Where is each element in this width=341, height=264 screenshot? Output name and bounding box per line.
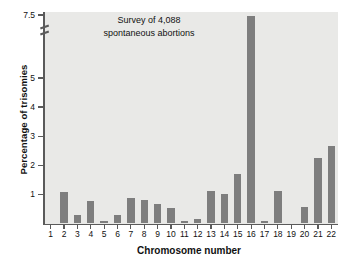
x-tick-8	[144, 225, 145, 229]
y-tick-label-7.5: 7.5	[5, 11, 35, 20]
bar-chromosome-16	[247, 16, 254, 224]
x-tick-label-22: 22	[321, 229, 341, 239]
x-tick-15	[237, 225, 238, 229]
bar-chromosome-14	[221, 194, 228, 223]
x-tick-7	[130, 225, 131, 229]
y-tick-2	[38, 165, 44, 166]
plot-area	[44, 12, 338, 224]
trisomy-bar-chart: Survey of 4,088 spontaneous abortions 12…	[0, 0, 341, 264]
x-tick-10	[170, 225, 171, 229]
bar-chromosome-12	[194, 219, 201, 224]
x-tick-20	[304, 225, 305, 229]
x-tick-14	[224, 225, 225, 229]
bar-chromosome-20	[301, 207, 308, 223]
bar-chromosome-18	[274, 191, 281, 223]
annotation-line-2: spontaneous abortions	[74, 27, 224, 40]
x-tick-13	[210, 225, 211, 229]
x-tick-22	[331, 225, 332, 229]
x-tick-21	[317, 225, 318, 229]
bar-chromosome-22	[328, 146, 335, 224]
bar-chromosome-10	[167, 208, 174, 223]
x-tick-9	[157, 225, 158, 229]
y-tick-3	[38, 136, 44, 137]
x-tick-11	[184, 225, 185, 229]
y-tick-1	[38, 194, 44, 195]
bar-chromosome-13	[207, 191, 214, 224]
bar-chromosome-17	[261, 221, 268, 223]
x-tick-6	[117, 225, 118, 229]
x-tick-17	[264, 225, 265, 229]
bar-chromosome-2	[60, 192, 67, 223]
bar-chromosome-4	[87, 201, 94, 223]
bar-chromosome-21	[314, 158, 321, 224]
bar-chromosome-9	[154, 204, 161, 224]
bar-chromosome-11	[181, 221, 188, 224]
x-axis-title: Chromosome number	[40, 245, 338, 256]
x-tick-5	[104, 225, 105, 229]
annotation-line-1: Survey of 4,088	[74, 14, 224, 27]
x-tick-1	[50, 225, 51, 229]
bar-chromosome-6	[114, 215, 121, 223]
bar-chromosome-5	[100, 221, 107, 224]
x-tick-12	[197, 225, 198, 229]
x-tick-3	[77, 225, 78, 229]
chart-annotation: Survey of 4,088 spontaneous abortions	[74, 14, 224, 40]
bar-chromosome-8	[141, 200, 148, 223]
x-tick-16	[251, 225, 252, 229]
x-tick-2	[63, 225, 64, 229]
y-tick-7.5	[38, 14, 44, 15]
y-tick-5	[38, 77, 44, 78]
bar-chromosome-3	[74, 215, 81, 223]
x-axis-line	[43, 224, 338, 225]
x-tick-4	[90, 225, 91, 229]
y-tick-4	[38, 106, 44, 107]
y-axis-title: Percentage of trisomies	[18, 35, 29, 205]
bar-chromosome-7	[127, 198, 134, 223]
x-tick-18	[277, 225, 278, 229]
x-tick-19	[291, 225, 292, 229]
bar-chromosome-15	[234, 174, 241, 223]
